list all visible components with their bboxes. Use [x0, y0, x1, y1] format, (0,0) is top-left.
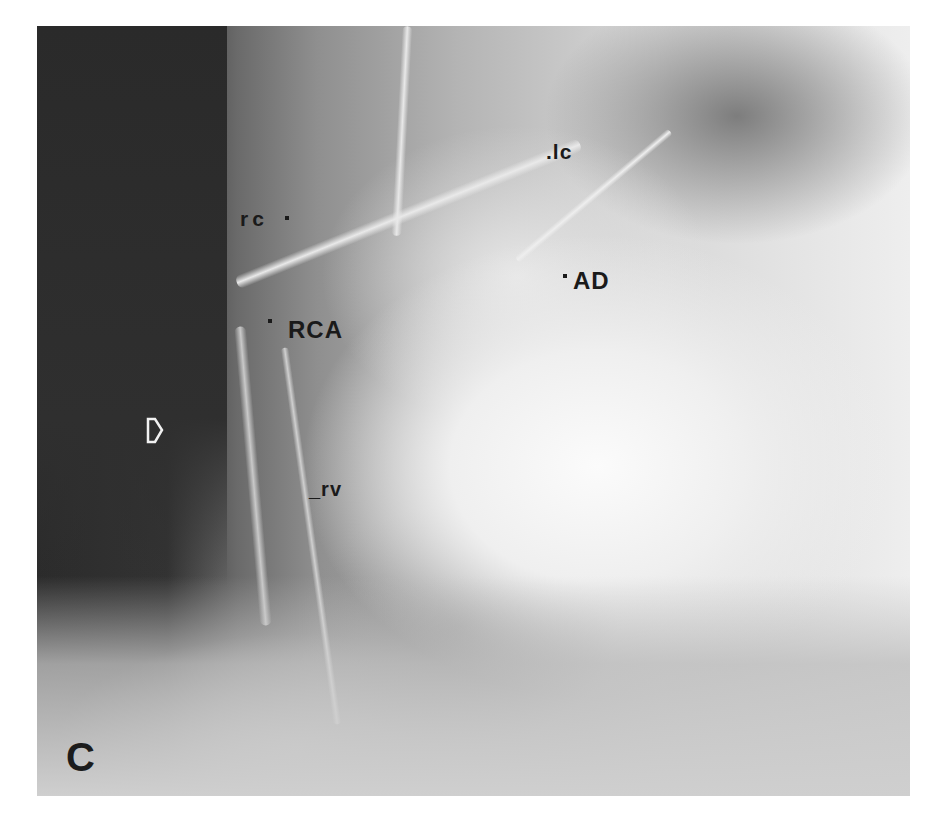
dark-background-region — [37, 26, 227, 586]
label-ad: AD — [573, 267, 610, 295]
panel-label: C — [66, 735, 95, 780]
label-rca-dot — [268, 319, 272, 323]
anterior-descending-artery — [514, 128, 672, 263]
angiogram-image — [37, 26, 910, 796]
label-rc: rc — [240, 207, 268, 231]
label-ad-dot — [563, 274, 567, 278]
diaphragm-region — [37, 576, 910, 796]
arrow-right-icon — [145, 415, 165, 447]
label-lc: .lc — [546, 140, 572, 164]
right-coronary-artery — [234, 138, 582, 290]
label-rv: _rv — [309, 478, 342, 501]
label-rc-dot — [285, 216, 289, 220]
label-rca: RCA — [288, 316, 343, 344]
